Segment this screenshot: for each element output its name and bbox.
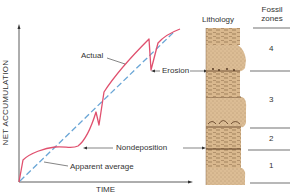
- zone-2-label: 2: [269, 135, 273, 143]
- erosion-label: Erosion: [162, 67, 189, 75]
- zone-1-label: 1: [269, 162, 273, 170]
- zone-4-label: 4: [269, 45, 273, 53]
- diagram-canvas: [0, 0, 291, 196]
- zone-3-label: 3: [269, 96, 273, 104]
- x-axis-label: TIME: [96, 186, 115, 194]
- nondeposition-label: Nondeposition: [116, 144, 167, 152]
- lithology-column: [206, 28, 246, 185]
- y-axis-label: NET ACCUMULATION: [1, 60, 10, 146]
- actual-label: Actual: [81, 52, 103, 60]
- apparent-average-label: Apparent average: [70, 163, 134, 171]
- fossil-zones-header: Fossil zones: [257, 5, 287, 23]
- axes: [18, 24, 194, 184]
- lithology-header: Lithology: [202, 15, 234, 24]
